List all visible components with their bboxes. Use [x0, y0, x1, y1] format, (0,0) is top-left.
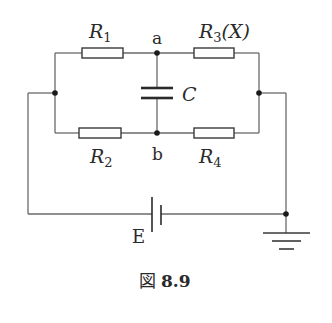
resistor-r4 [194, 128, 234, 138]
ground-junction-dot [283, 211, 289, 217]
label-r4: R4 [198, 145, 222, 170]
label-r2: R2 [89, 145, 113, 170]
resistor-r3 [194, 48, 234, 58]
label-node-b: b [152, 144, 163, 164]
figure-caption: 図8.9 [139, 271, 191, 291]
left-junction-dot [52, 90, 58, 96]
label-r1: R1 [88, 20, 112, 45]
circuit-diagram: R1 a R3(X) C R2 b R4 E 図8.9 [0, 0, 332, 323]
ground-symbol [263, 233, 310, 249]
label-capacitor: C [182, 83, 197, 105]
node-b-dot [154, 130, 160, 136]
resistor-r1 [82, 48, 123, 58]
label-battery: E [132, 226, 145, 247]
node-a-dot [154, 50, 160, 56]
label-node-a: a [152, 28, 162, 48]
battery [152, 197, 161, 232]
wires [28, 53, 286, 233]
label-r3: R3(X) [198, 20, 250, 45]
capacitor [141, 88, 173, 98]
right-junction-dot [256, 90, 262, 96]
resistor-r2 [79, 128, 121, 138]
